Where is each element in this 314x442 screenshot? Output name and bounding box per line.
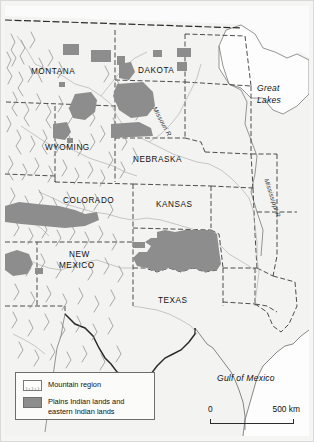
state-label-colorado: COLORADO xyxy=(63,197,114,205)
state-label-new: NEW xyxy=(69,251,90,259)
legend-label-indian-lands-line1: Plains Indian lands and xyxy=(48,397,124,407)
state-label-mexico: MEXICO xyxy=(59,262,95,270)
legend-item-mountain-region: Mountain region xyxy=(23,380,101,391)
state-label-dakota: DAKOTA xyxy=(138,67,174,75)
legend-item-indian-lands: Plains Indian lands and eastern Indian l… xyxy=(23,397,124,416)
state-label-nebraska: NEBRASKA xyxy=(133,156,182,164)
water-label-gulf-of-mexico: Gulf of Mexico xyxy=(217,374,275,383)
state-label-kansas: KANSAS xyxy=(156,201,193,209)
state-label-texas: TEXAS xyxy=(158,297,188,305)
indian-lands-swatch xyxy=(23,397,42,408)
scale-bar-labels: 0 500 km xyxy=(208,404,300,415)
scale-bar: 0 500 km xyxy=(208,404,300,430)
mountain-region-swatch xyxy=(23,380,42,391)
legend-label-mountain-region: Mountain region xyxy=(48,380,101,390)
state-label-montana: MONTANA xyxy=(31,68,75,76)
state-label-wyoming: WYOMING xyxy=(45,144,90,152)
scale-min-label: 0 xyxy=(208,404,213,414)
water-label-lakes: Lakes xyxy=(257,96,281,105)
map-figure: MONTANA DAKOTA WYOMING NEBRASKA COLORADO… xyxy=(0,0,314,442)
scale-bar-rule xyxy=(210,419,294,424)
legend-label-indian-lands-line2: eastern Indian lands xyxy=(48,407,124,417)
map-legend: Mountain region Plains Indian lands and … xyxy=(15,372,155,420)
scale-max-label: 500 km xyxy=(273,404,300,414)
water-label-great: Great xyxy=(257,84,280,93)
